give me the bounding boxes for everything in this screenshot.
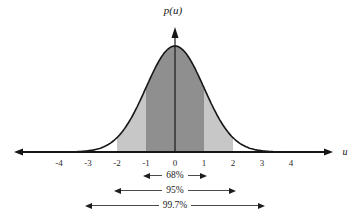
arrow-line [191, 205, 258, 206]
coverage-label: 95% [162, 186, 187, 195]
tick-label--4: -4 [55, 158, 63, 168]
arrow-right-icon [229, 188, 236, 194]
tick-label--3: -3 [84, 158, 92, 168]
tick-label-4: 4 [289, 158, 294, 168]
tick-label-0: 0 [173, 158, 178, 168]
arrow-line [121, 190, 162, 191]
arrow-line [188, 190, 229, 191]
arrow-line [150, 175, 162, 176]
coverage-label: 99.7% [159, 201, 192, 210]
x-axis-right-arrow-icon [324, 149, 333, 156]
arrow-right-icon [200, 173, 207, 179]
arrow-left-icon [114, 188, 121, 194]
y-axis-label: p(u) [164, 4, 182, 16]
tick-label--1: -1 [142, 158, 150, 168]
coverage-label: 68% [162, 171, 187, 180]
y-axis-up-arrow-icon [172, 27, 179, 38]
coverage-annotation-99.7%: 99.7% [85, 201, 265, 210]
arrow-line [188, 175, 200, 176]
normal-distribution-figure: p(u) u -4-3-2-101234 68%95%99.7% [0, 0, 354, 221]
tick-label-1: 1 [202, 158, 207, 168]
coverage-annotation-95%: 95% [114, 186, 236, 195]
tick-label-3: 3 [260, 158, 265, 168]
tick-label-2: 2 [231, 158, 236, 168]
arrow-line [92, 205, 159, 206]
arrow-left-icon [85, 203, 92, 209]
x-axis-left-arrow-icon [14, 149, 23, 156]
x-axis-label: u [343, 146, 348, 157]
arrow-right-icon [258, 203, 265, 209]
arrow-left-icon [143, 173, 150, 179]
coverage-annotation-68%: 68% [143, 171, 207, 180]
tick-label--2: -2 [113, 158, 121, 168]
